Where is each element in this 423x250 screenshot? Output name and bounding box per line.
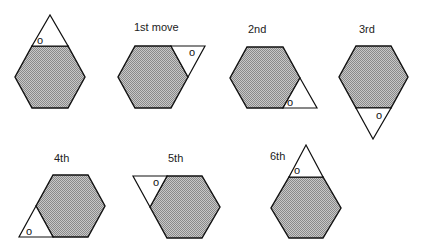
vertex-mark: o [26, 225, 32, 237]
hexagon [271, 177, 341, 238]
hexagon [339, 46, 408, 108]
panel-start: o [15, 15, 85, 108]
panel-label: 1st move [134, 21, 179, 33]
panel-6th: 6th o [270, 145, 341, 238]
vertex-mark: o [376, 109, 382, 121]
panel-label: 3rd [359, 23, 375, 35]
hexagon [15, 46, 85, 108]
panel-label: 5th [168, 152, 183, 164]
vertex-mark: o [153, 176, 159, 188]
vertex-mark: o [287, 96, 293, 108]
panel-1st-move: 1st move o [118, 21, 205, 108]
panel-label: 2nd [248, 23, 266, 35]
panel-2nd: 2nd o [230, 23, 317, 108]
panel-3rd: 3rd o [339, 23, 408, 139]
vertex-mark: o [294, 164, 300, 176]
vertex-mark: o [189, 46, 195, 58]
panel-4th: 4th o [19, 152, 105, 237]
triangle-rolling-diagram: o 1st move o 2nd o 3rd o 4th o 5th o 6th [0, 0, 423, 250]
triangle [356, 108, 391, 139]
vertex-mark: o [37, 34, 43, 46]
panel-label: 6th [270, 150, 285, 162]
panel-5th: 5th o [133, 152, 220, 238]
panel-label: 4th [54, 152, 69, 164]
